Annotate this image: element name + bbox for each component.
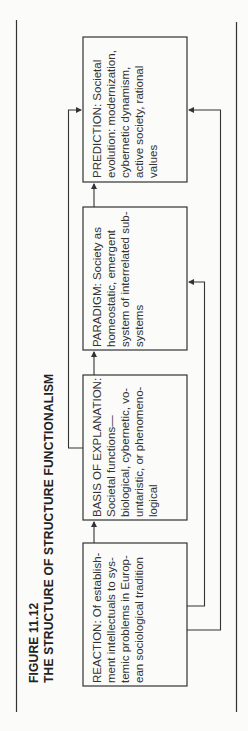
box-line: ment intellectuals to sys- [104, 553, 118, 683]
arrow-reaction-prediction [187, 110, 221, 630]
box-line: PREDICTION: Societal [90, 50, 104, 178]
box-line: homeostatic, emergent [104, 211, 118, 347]
box-basis: BASIS OF EXPLANATION: Societal functions… [90, 378, 160, 517]
box-line: values [146, 50, 160, 178]
box-line: logical [146, 378, 160, 517]
box-line: system of interrelated sub- [118, 211, 132, 347]
box-line: systems [132, 211, 146, 347]
box-line: REACTION: Of establish- [90, 553, 104, 683]
box-line: untaristic, or phenomeno- [132, 378, 146, 517]
box-line: evolution: modernization, [104, 50, 118, 178]
figure-label: FIGURE 11.12 [27, 374, 42, 683]
arrow-reaction-paradigm [187, 282, 205, 606]
figure-title: THE STRUCTURE OF STRUCTURE FUNCTIONALISM [42, 374, 57, 683]
box-line: active society, rational [132, 50, 146, 178]
box-reaction: REACTION: Of establish- ment intellectua… [90, 553, 146, 683]
box-line: cybernetic dynamism, [118, 50, 132, 178]
box-line: biological, cybernetic, vo- [118, 378, 132, 517]
box-line: ean sociological tradition [132, 553, 146, 683]
box-line: PARADIGM: Society as [90, 211, 104, 347]
box-line: temic problems in Europ- [118, 553, 132, 683]
box-prediction: PREDICTION: Societal evolution: moderniz… [90, 50, 160, 178]
figure-caption: FIGURE 11.12 THE STRUCTURE OF STRUCTURE … [27, 374, 57, 683]
box-paradigm: PARADIGM: Society as homeostatic, emerge… [90, 211, 146, 347]
box-line: Societal functions— [104, 378, 118, 517]
box-line: BASIS OF EXPLANATION: [90, 378, 104, 517]
arrow-basis-prediction [69, 110, 84, 448]
